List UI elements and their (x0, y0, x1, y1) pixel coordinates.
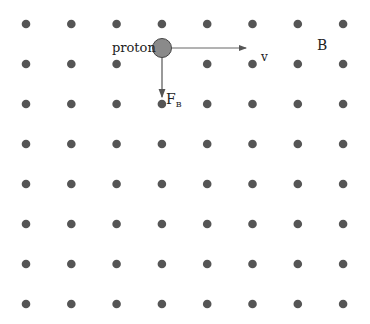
field-dot (112, 300, 121, 309)
field-dot (248, 60, 257, 69)
field-dot (203, 100, 212, 109)
field-dot (248, 180, 257, 189)
field-dot (22, 220, 31, 229)
field-dot (112, 20, 121, 29)
field-dot (248, 220, 257, 229)
field-dot (112, 100, 121, 109)
field-dot (248, 140, 257, 149)
field-dot (339, 300, 348, 309)
field-dot (22, 60, 31, 69)
field-dot (248, 100, 257, 109)
field-dot (112, 140, 121, 149)
field-dot (339, 60, 348, 69)
field-dot (339, 220, 348, 229)
field-dot (339, 140, 348, 149)
field-dot (158, 20, 167, 29)
field-dot (203, 20, 212, 29)
field-dot (203, 220, 212, 229)
field-dot (248, 300, 257, 309)
field-dot (112, 180, 121, 189)
field-dot (294, 180, 303, 189)
field-dot (294, 100, 303, 109)
field-dot (67, 180, 76, 189)
velocity-label: v (260, 50, 268, 64)
field-dot (158, 220, 167, 229)
field-dot (158, 180, 167, 189)
force-label-main: F (166, 91, 176, 107)
field-dot (294, 260, 303, 269)
field-dot (339, 100, 348, 109)
field-dot (67, 300, 76, 309)
proton-label: proton (112, 40, 156, 55)
field-dot (112, 220, 121, 229)
field-dot (203, 140, 212, 149)
field-label: B (317, 37, 327, 53)
field-dot-grid (22, 20, 348, 309)
force-label-sub: B (176, 100, 182, 109)
field-dot (294, 140, 303, 149)
field-dot (22, 20, 31, 29)
field-dot (22, 260, 31, 269)
field-dot (112, 60, 121, 69)
field-dot (158, 300, 167, 309)
field-dot (294, 300, 303, 309)
field-dot (339, 180, 348, 189)
field-dot (158, 140, 167, 149)
field-dot (294, 60, 303, 69)
field-dot (22, 100, 31, 109)
force-label: FB (166, 91, 182, 109)
field-dot (248, 260, 257, 269)
field-dot (67, 100, 76, 109)
field-dot (203, 180, 212, 189)
field-dot (67, 260, 76, 269)
field-dot (22, 300, 31, 309)
field-dot (294, 20, 303, 29)
field-dot (67, 60, 76, 69)
field-dot (67, 220, 76, 229)
field-dot (203, 60, 212, 69)
field-dot (248, 20, 257, 29)
field-dot (203, 260, 212, 269)
field-dot (158, 260, 167, 269)
field-dot (158, 100, 167, 109)
field-dot (339, 260, 348, 269)
diagram-canvas: proton v B FB (0, 0, 370, 324)
field-dot (203, 300, 212, 309)
field-dot (22, 140, 31, 149)
field-dot (339, 20, 348, 29)
field-dot (67, 140, 76, 149)
field-dot (112, 260, 121, 269)
field-dot (67, 20, 76, 29)
field-dot (294, 220, 303, 229)
field-dot (22, 180, 31, 189)
